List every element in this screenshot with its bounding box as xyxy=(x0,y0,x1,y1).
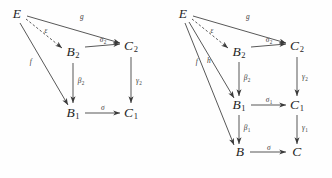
object-C2: C2 xyxy=(124,39,138,54)
label-sigma: σ xyxy=(267,144,271,153)
object-B1: B1 xyxy=(67,106,80,121)
label-beta-1: β1 xyxy=(244,124,251,133)
object-C: C xyxy=(292,145,302,160)
object-B1: B1 xyxy=(233,98,246,113)
arrow-sigma-2 xyxy=(251,44,286,47)
label-sigma-2: σ2 xyxy=(266,36,273,45)
object-B2: B2 xyxy=(233,45,246,60)
label-epsilon: ε xyxy=(44,27,47,36)
label-f: f xyxy=(196,58,198,67)
object-C1: C1 xyxy=(124,106,138,121)
object-E: E xyxy=(179,7,188,22)
label-g: g xyxy=(80,13,84,22)
arrow-sigma-2 xyxy=(85,44,120,47)
commutative-diagram-right: E B2 C2 B1 C1 B C ε g f h σ2 β2 γ2 σ1 β1… xyxy=(166,0,332,178)
label-sigma-1: σ1 xyxy=(266,96,273,105)
label-beta-2: β2 xyxy=(78,77,85,86)
label-g: g xyxy=(246,13,250,22)
object-E: E xyxy=(13,7,22,22)
object-B2: B2 xyxy=(67,45,80,60)
diagram-left-arrows xyxy=(0,0,166,178)
arrow-f xyxy=(185,23,234,145)
label-sigma: σ xyxy=(101,104,105,113)
label-gamma-2: γ2 xyxy=(302,73,308,82)
object-C2: C2 xyxy=(290,39,304,54)
commutative-diagram-left: E B2 C2 B1 C1 ε g f σ2 β2 γ2 σ xyxy=(0,0,166,178)
diagram-right-arrows xyxy=(166,0,332,178)
label-f: f xyxy=(30,58,32,67)
label-gamma-2: γ2 xyxy=(136,77,142,86)
label-gamma-1: γ1 xyxy=(302,124,308,133)
label-beta-2: β2 xyxy=(244,74,251,83)
label-epsilon: ε xyxy=(210,27,213,36)
figure-two-commutative-diagrams: E B2 C2 B1 C1 ε g f σ2 β2 γ2 σ xyxy=(0,0,332,178)
object-B: B xyxy=(236,145,245,160)
label-h: h xyxy=(207,57,211,66)
object-C1: C1 xyxy=(290,98,304,113)
label-sigma-2: σ2 xyxy=(100,36,107,45)
